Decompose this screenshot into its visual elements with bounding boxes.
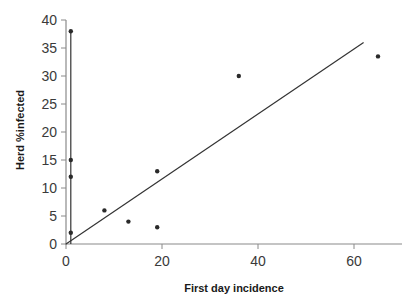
y-tick-label: 15 <box>41 152 57 168</box>
x-tick-label: 20 <box>154 253 170 269</box>
y-axis-title: Herd %infected <box>14 90 26 170</box>
y-tick-label: 10 <box>41 180 57 196</box>
x-axis-title: First day incidence <box>184 282 284 294</box>
data-point <box>237 74 241 78</box>
y-tick-label: 30 <box>41 68 57 84</box>
y-tick-label: 0 <box>49 236 57 252</box>
x-tick-label: 0 <box>62 253 70 269</box>
data-point <box>69 175 73 179</box>
data-point <box>69 158 73 162</box>
scatter-chart: 0510152025303540 0204060 First day incid… <box>0 0 413 308</box>
chart-lines <box>66 31 364 244</box>
y-tick-label: 5 <box>49 208 57 224</box>
y-tick-label: 35 <box>41 40 57 56</box>
data-point <box>69 29 73 33</box>
y-tick-label: 25 <box>41 96 57 112</box>
trend-line <box>66 42 364 244</box>
data-point <box>126 219 130 223</box>
data-point <box>69 231 73 235</box>
x-axis-ticks: 0204060 <box>62 244 362 269</box>
y-axis-ticks: 0510152025303540 <box>41 12 66 252</box>
axes <box>65 20 402 245</box>
y-tick-label: 20 <box>41 124 57 140</box>
data-point <box>155 169 159 173</box>
data-point <box>376 54 380 58</box>
y-tick-label: 40 <box>41 12 57 28</box>
data-points <box>69 29 381 235</box>
x-tick-label: 60 <box>346 253 362 269</box>
data-point <box>155 225 159 229</box>
x-tick-label: 40 <box>250 253 266 269</box>
data-point <box>102 208 106 212</box>
